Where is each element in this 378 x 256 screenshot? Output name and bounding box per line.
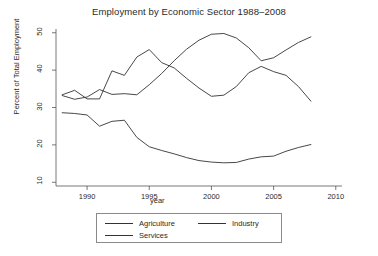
y-tick-label-10: 10: [35, 172, 44, 190]
legend-item-agriculture: Agriculture: [105, 219, 175, 228]
y-axis-ticks: [52, 33, 56, 183]
chart-figure: Employment by Economic Sector 1988–2008 …: [0, 0, 378, 256]
series-line-services: [62, 33, 311, 99]
y-tick-label-30: 30: [35, 97, 44, 115]
axes: [52, 29, 342, 190]
series-line-agriculture: [62, 113, 311, 163]
x-tick-label-2000: 2000: [194, 192, 228, 201]
legend-item-industry: Industry: [198, 219, 259, 228]
legend-label-industry: Industry: [232, 219, 259, 228]
legend-label-agriculture: Agriculture: [139, 219, 175, 228]
legend-label-services: Services: [139, 231, 168, 240]
y-tick-label-50: 50: [35, 22, 44, 40]
legend-line-services-icon: [105, 235, 133, 236]
x-tick-label-2005: 2005: [257, 192, 291, 201]
y-axis-label: Percent of Total Employment: [12, 7, 21, 127]
x-tick-label-1990: 1990: [70, 192, 104, 201]
legend-line-industry-icon: [198, 223, 226, 224]
x-tick-label-2010: 2010: [319, 192, 353, 201]
legend-item-services: Services: [105, 231, 168, 240]
legend-line-agriculture-icon: [105, 223, 133, 224]
y-tick-label-20: 20: [35, 134, 44, 152]
chart-legend: Agriculture Industry Services: [96, 213, 282, 243]
x-axis-label: year: [150, 196, 165, 205]
data-series-group: [62, 33, 311, 162]
x-axis-ticks: [87, 186, 336, 190]
y-tick-label-40: 40: [35, 60, 44, 78]
